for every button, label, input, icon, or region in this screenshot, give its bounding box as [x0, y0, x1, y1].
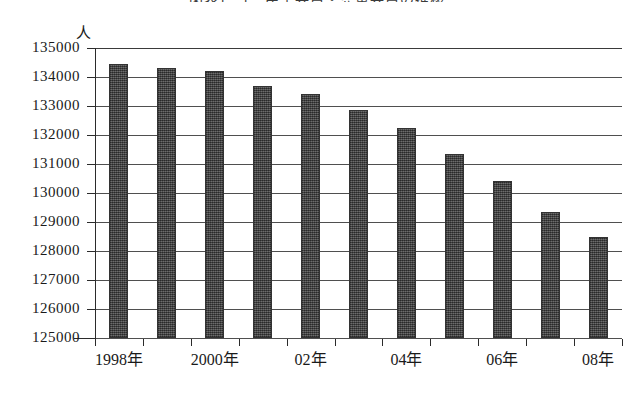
- y-axis-tick: [87, 193, 96, 194]
- bar: [445, 154, 464, 338]
- x-axis-tick: [430, 339, 431, 346]
- gridline: [95, 338, 622, 339]
- bar: [397, 128, 416, 338]
- y-axis-tick: [87, 77, 96, 78]
- gridline: [95, 48, 622, 49]
- x-axis-tick: [622, 339, 623, 346]
- y-axis-tick: [87, 48, 96, 49]
- y-axis-tick-label: 131000: [0, 156, 80, 171]
- chart-figure: 図表1－1 民生委員・児童委員の推移 人 1350001340001330001…: [0, 0, 634, 402]
- y-axis-tick: [87, 106, 96, 107]
- x-axis-tick: [143, 339, 144, 346]
- y-axis-tick-label: 133000: [0, 98, 80, 113]
- x-axis-tick-label: 04年: [390, 352, 422, 368]
- y-axis-tick-label: 129000: [0, 214, 80, 229]
- bar: [493, 181, 512, 338]
- bar: [349, 110, 368, 338]
- y-axis-tick-label: 132000: [0, 127, 80, 142]
- bar: [301, 94, 320, 338]
- x-axis-tick-label: 1998年: [95, 352, 143, 368]
- x-axis-tick: [239, 339, 240, 346]
- x-axis-tick-label: 2000年: [191, 352, 239, 368]
- x-axis-tick: [191, 339, 192, 346]
- x-axis-tick: [478, 339, 479, 346]
- y-axis-tick: [87, 222, 96, 223]
- y-axis-tick-label: 127000: [0, 272, 80, 287]
- x-axis-tick: [382, 339, 383, 346]
- bar: [205, 71, 224, 338]
- x-axis-tick: [526, 339, 527, 346]
- bar: [541, 212, 560, 338]
- plot-area: [95, 48, 622, 338]
- x-axis-tick: [335, 339, 336, 346]
- y-axis-tick: [87, 164, 96, 165]
- x-axis-tick: [95, 339, 96, 346]
- y-axis-tick-label: 130000: [0, 185, 80, 200]
- x-axis-tick: [287, 339, 288, 346]
- x-axis-tick-label: 02年: [295, 352, 327, 368]
- x-axis-tick: [574, 339, 575, 346]
- y-axis-tick: [87, 251, 96, 252]
- y-axis-tick-label: 135000: [0, 40, 80, 55]
- bar: [157, 68, 176, 338]
- y-axis-tick-label: 128000: [0, 243, 80, 258]
- x-axis-tick-label: 08年: [582, 352, 614, 368]
- y-axis-tick-label: 126000: [0, 301, 80, 316]
- chart-title: 図表1－1 民生委員・児童委員の推移: [0, 0, 634, 2]
- y-axis-tick: [87, 309, 96, 310]
- y-axis-tick-label: 125000: [0, 330, 80, 345]
- bar: [253, 86, 272, 338]
- x-axis-tick-label: 06年: [486, 352, 518, 368]
- y-axis-tick: [87, 135, 96, 136]
- bar: [109, 64, 128, 338]
- y-axis-tick: [87, 280, 96, 281]
- bar: [589, 237, 608, 339]
- y-axis-tick-label: 134000: [0, 69, 80, 84]
